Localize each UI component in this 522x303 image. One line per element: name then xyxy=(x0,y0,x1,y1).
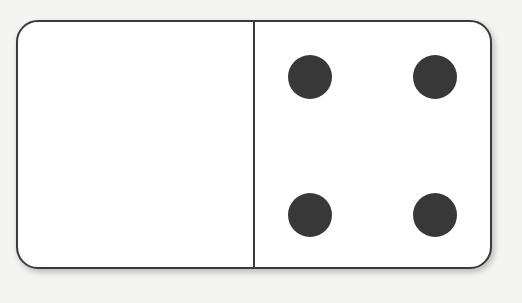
domino-tile xyxy=(16,20,492,269)
pip-dot-icon xyxy=(288,193,332,237)
domino-right-half-four xyxy=(255,22,490,267)
pip-dot-icon xyxy=(413,55,457,99)
pip-dot-icon xyxy=(288,55,332,99)
domino-left-half-blank xyxy=(18,22,253,267)
pip-dot-icon xyxy=(413,193,457,237)
